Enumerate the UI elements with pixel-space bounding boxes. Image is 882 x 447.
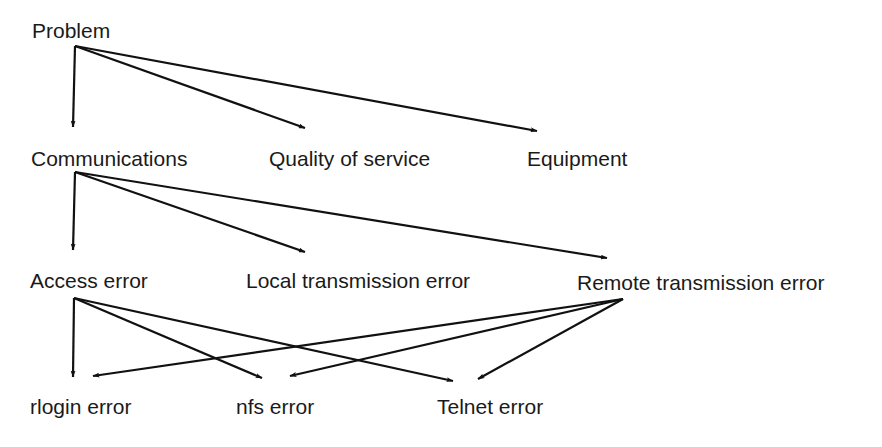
arrow-communications-to-local (75, 172, 305, 252)
node-communications: Communications (31, 148, 187, 169)
node-rlogin: rlogin error (30, 396, 132, 417)
node-remote: Remote transmission error (577, 272, 824, 293)
arrow-remote-to-rlogin (93, 299, 623, 376)
arrow-access-to-rlogin (73, 298, 74, 377)
node-access: Access error (30, 270, 148, 291)
arrow-problem-to-equipment (75, 46, 537, 131)
arrow-access-to-telnet (74, 298, 453, 381)
arrow-remote-to-nfs (290, 299, 623, 376)
node-local: Local transmission error (246, 270, 470, 291)
edge-group (73, 46, 623, 381)
node-quality: Quality of service (269, 148, 430, 169)
node-nfs: nfs error (236, 396, 314, 417)
node-equipment: Equipment (527, 148, 627, 169)
problem-hierarchy-diagram: ProblemCommunicationsQuality of serviceE… (0, 0, 882, 447)
edges-layer (0, 0, 882, 447)
arrow-problem-to-communications (73, 46, 75, 127)
node-problem: Problem (32, 20, 110, 41)
node-telnet: Telnet error (437, 396, 543, 417)
arrow-communications-to-remote (75, 172, 607, 258)
arrow-problem-to-quality (75, 46, 305, 128)
arrow-remote-to-telnet (478, 299, 623, 379)
arrow-communications-to-access (73, 172, 75, 250)
